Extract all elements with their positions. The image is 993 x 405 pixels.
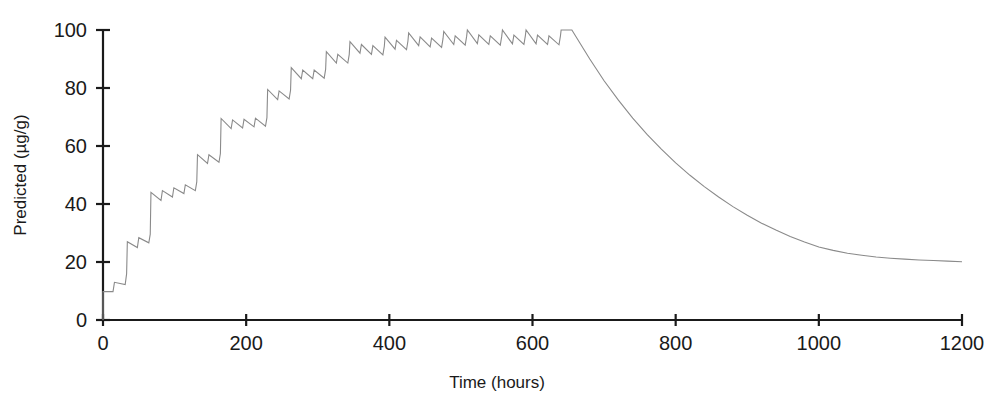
plot-background [0, 0, 993, 405]
y-tick-label: 60 [65, 135, 87, 157]
x-tick-label: 600 [516, 332, 549, 354]
y-tick-label: 40 [65, 193, 87, 215]
x-axis-title: Time (hours) [449, 373, 545, 392]
chart-figure: 020040060080010001200 020406080100 Time … [0, 0, 993, 405]
x-tick-label: 400 [373, 332, 406, 354]
y-tick-label: 20 [65, 251, 87, 273]
y-axis-title: Predicted (µg/g) [11, 114, 30, 235]
x-tick-label: 800 [659, 332, 692, 354]
x-tick-label: 1000 [797, 332, 842, 354]
y-tick-label: 0 [76, 309, 87, 331]
x-tick-label: 200 [229, 332, 262, 354]
y-tick-label: 100 [54, 19, 87, 41]
x-tick-label: 0 [97, 332, 108, 354]
y-tick-label: 80 [65, 77, 87, 99]
predicted-concentration-line-chart: 020040060080010001200 020406080100 Time … [0, 0, 993, 405]
x-tick-label: 1200 [940, 332, 985, 354]
